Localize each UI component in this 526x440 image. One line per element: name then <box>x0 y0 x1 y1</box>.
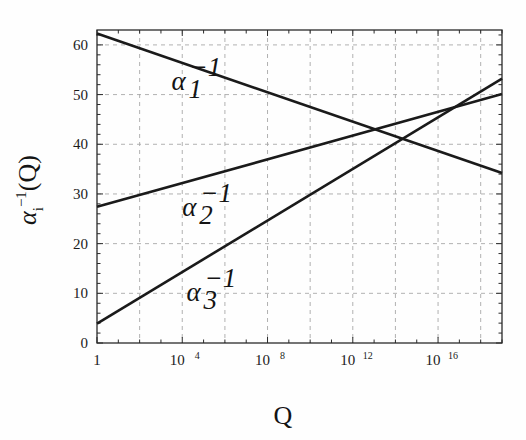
svg-text:Q: Q <box>274 401 293 430</box>
svg-text:10: 10 <box>340 352 355 368</box>
svg-text:1: 1 <box>93 352 101 368</box>
svg-text:8: 8 <box>280 350 285 361</box>
svg-text:10: 10 <box>255 352 270 368</box>
svg-text:16: 16 <box>448 350 458 361</box>
coupling-unification-chart: 110410810121016 0102030405060 α1−1α2−1α3… <box>0 0 526 440</box>
y-tick-label: 0 <box>81 335 89 351</box>
svg-text:αi−1(Q): αi−1(Q) <box>13 155 46 225</box>
svg-text:α: α <box>182 192 197 222</box>
svg-text:10: 10 <box>170 352 185 368</box>
chart-background <box>0 0 526 440</box>
y-tick-label: 20 <box>73 236 88 252</box>
y-axis-title: αi−1(Q) <box>13 155 46 225</box>
svg-text:4: 4 <box>195 350 200 361</box>
svg-text:−1: −1 <box>205 263 237 293</box>
svg-text:α: α <box>187 277 202 307</box>
svg-text:−1: −1 <box>190 52 222 82</box>
svg-text:−1: −1 <box>200 178 232 208</box>
y-tick-label: 40 <box>73 136 88 152</box>
svg-text:α: α <box>172 66 187 96</box>
y-tick-label: 10 <box>73 285 88 301</box>
y-tick-label: 60 <box>73 37 88 53</box>
svg-text:12: 12 <box>363 350 373 361</box>
y-tick-label: 50 <box>73 87 88 103</box>
x-axis-title: Q <box>274 401 293 430</box>
svg-text:10: 10 <box>426 352 441 368</box>
y-tick-label: 30 <box>73 186 88 202</box>
x-tick-label: 1 <box>93 352 101 368</box>
